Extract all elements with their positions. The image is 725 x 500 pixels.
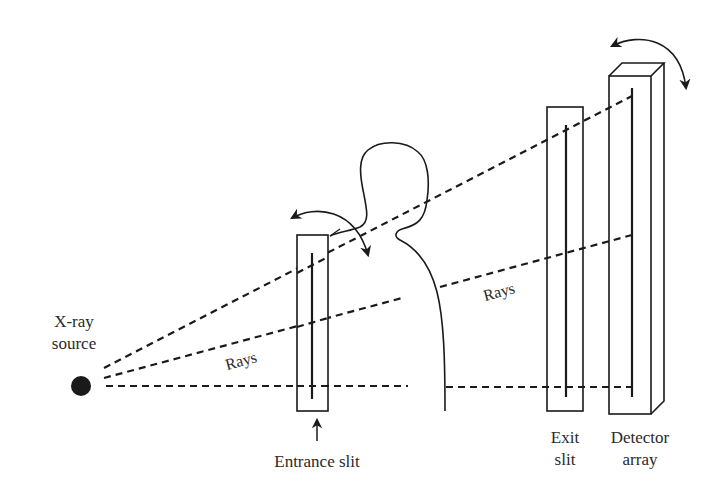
xray-source-icon bbox=[71, 376, 91, 396]
entrance-slit-label: Entrance slit bbox=[254, 451, 380, 473]
detector-top bbox=[609, 63, 664, 76]
ray-upper bbox=[104, 96, 632, 368]
detector-front bbox=[609, 76, 651, 414]
detector-side bbox=[651, 63, 664, 414]
source-label-line1: X-ray bbox=[34, 311, 114, 333]
rays bbox=[104, 96, 632, 387]
source-label-line2: source bbox=[34, 333, 114, 355]
xray-scanning-diagram bbox=[0, 0, 725, 500]
detector-label-line1: Detector bbox=[600, 427, 680, 449]
exit-slit-label-line2: slit bbox=[540, 449, 590, 471]
detector-label: Detector array bbox=[600, 427, 680, 471]
ray-middle-b bbox=[440, 235, 632, 287]
source-label: X-ray source bbox=[34, 311, 114, 355]
exit-slit bbox=[547, 107, 583, 411]
detector-label-line2: array bbox=[600, 449, 680, 471]
exit-slit-label-line1: Exit bbox=[540, 427, 590, 449]
exit-slit-label: Exit slit bbox=[540, 427, 590, 471]
patient-outline bbox=[330, 143, 445, 411]
